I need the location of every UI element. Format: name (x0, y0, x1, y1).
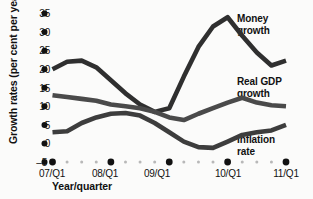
x-tick-dot-major (107, 159, 114, 166)
x-tick-dot-minor (80, 161, 83, 164)
x-tick-dot-minor (270, 161, 273, 164)
y-axis-tick-dots (42, 11, 48, 166)
y-tick-dot (42, 103, 48, 109)
x-tick-dot-minor (139, 161, 142, 164)
x-tick-dot-minor (66, 161, 69, 164)
y-tick-dot (42, 85, 48, 91)
series-lines (53, 17, 287, 148)
x-tick-dot-minor (241, 161, 244, 164)
x-tick-dot-major (224, 159, 231, 166)
y-tick-dot (42, 48, 48, 54)
x-tick-dot-minor (153, 161, 156, 164)
x-tick-dot-minor (124, 161, 127, 164)
chart-plot-area (0, 0, 313, 199)
x-tick-dot-minor (255, 161, 258, 164)
y-tick-dot (42, 122, 48, 128)
x-tick-dot-minor (95, 161, 98, 164)
y-tick-dot (42, 29, 48, 35)
x-tick-dot-minor (212, 161, 215, 164)
x-axis-tick-dots (49, 159, 289, 166)
x-tick-dot-minor (182, 161, 185, 164)
chart-figure: Growth rates (per cent per year) Year/qu… (0, 0, 313, 199)
y-tick-dot (42, 159, 48, 165)
x-tick-dot-major (166, 159, 173, 166)
y-tick-dot (42, 140, 48, 146)
x-tick-dot-major (283, 159, 290, 166)
y-tick-dot (42, 11, 48, 17)
y-tick-dot (42, 66, 48, 72)
x-tick-dot-minor (197, 161, 200, 164)
x-tick-dot-major (49, 159, 56, 166)
